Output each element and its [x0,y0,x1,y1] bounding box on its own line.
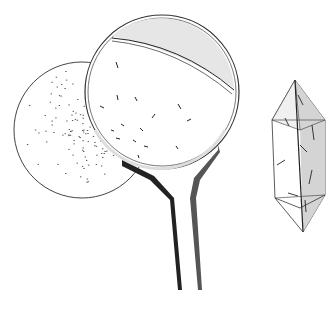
illustration-canvas [0,0,333,309]
magnifier-lens [85,15,239,169]
illustration [0,0,333,309]
crystal [272,80,325,232]
